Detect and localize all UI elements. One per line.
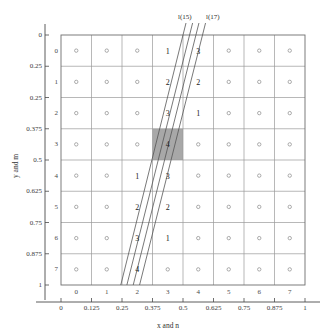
y-index-label-6: 6	[55, 235, 59, 242]
cell-value-r2-c4: 1	[196, 109, 200, 118]
cell-value-r4-c3: 3	[166, 171, 170, 180]
x-tick-label-5: 0.625	[206, 305, 222, 312]
x-tick-label-8: 1	[303, 305, 307, 312]
cell-value-r3-c3: 4	[166, 140, 170, 149]
y-tick-label-6: 0.75	[30, 219, 42, 226]
y-tick-label-4: 0.5	[33, 157, 42, 164]
y-tick-label-2: 0.25	[30, 94, 42, 101]
x-index-label-6: 6	[258, 289, 262, 296]
x-tick-label-6: 0.75	[238, 305, 250, 312]
line-label-l17: l(17)	[206, 13, 220, 21]
cell-value-r5-c2: 2	[135, 202, 139, 211]
cell-value-r0-c4: 3	[196, 46, 200, 55]
x-index-label-5: 5	[227, 289, 231, 296]
y-index-label-5: 5	[55, 203, 59, 210]
x-tick-label-3: 0.375	[145, 305, 161, 312]
y-tick-label-5: 0.625	[26, 188, 42, 195]
x-tick-label-0: 0	[59, 305, 63, 312]
x-axis-tick-marks	[61, 298, 305, 302]
y-index-label-0: 0	[55, 47, 59, 54]
x-index-label-0: 0	[75, 289, 79, 296]
cell-value-r5-c3: 2	[166, 202, 170, 211]
y-tick-label-1: 0.25	[30, 63, 42, 70]
y-tick-label-7: 0.875	[26, 250, 42, 257]
cell-value-r1-c4: 2	[196, 77, 200, 86]
diagonal-rays-extension	[183, 23, 206, 35]
x-index-label-4: 4	[197, 289, 201, 296]
y-tick-label-3: 0.375	[26, 125, 42, 132]
y-index-label-4: 4	[55, 172, 59, 179]
cell-value-r7-c2: 4	[135, 265, 139, 274]
y-tick-label-0: 0	[39, 32, 43, 39]
x-index-label-7: 7	[288, 289, 292, 296]
y-axis-tick-marks	[45, 35, 49, 285]
cell-value-r0-c3: 1	[166, 46, 170, 55]
x-tick-label-2: 0.25	[116, 305, 128, 312]
line-label-l15: l(15)	[178, 13, 192, 21]
cell-value-r1-c3: 2	[166, 77, 170, 86]
cell-value-r4-c2: 1	[135, 171, 139, 180]
cell-value-r2-c3: 3	[166, 109, 170, 118]
x-index-label-3: 3	[166, 289, 170, 296]
x-index-label-2: 2	[136, 289, 140, 296]
figure-canvas: l(15) l(17) x and n y and m 132231413223…	[0, 0, 336, 335]
x-index-label-1: 1	[105, 289, 109, 296]
cell-value-r6-c3: 1	[166, 234, 170, 243]
x-axis-label: x and n	[157, 321, 179, 330]
y-index-label-1: 1	[55, 78, 59, 85]
x-tick-label-1: 0.125	[84, 305, 100, 312]
y-index-label-2: 2	[55, 110, 59, 117]
y-index-label-7: 7	[55, 266, 59, 273]
cell-value-r6-c2: 3	[135, 234, 139, 243]
x-tick-label-4: 0.5	[179, 305, 188, 312]
y-axis-label: y and m	[11, 154, 20, 178]
y-tick-label-8: 1	[39, 282, 43, 289]
y-index-label-3: 3	[55, 141, 59, 148]
x-tick-label-7: 0.875	[267, 305, 283, 312]
